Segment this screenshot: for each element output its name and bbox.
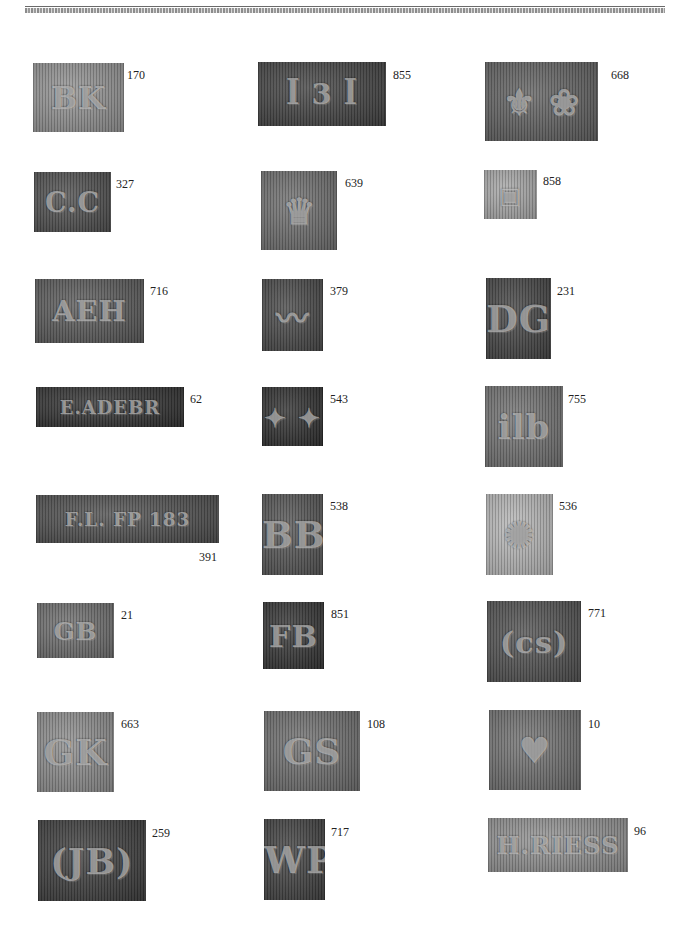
hallmark-photo: C.C — [34, 172, 111, 232]
hallmark-photo: ▣ — [484, 170, 537, 219]
hallmark-photo: H.RIESS — [488, 818, 628, 872]
hallmark-number: 231 — [557, 285, 575, 297]
hallmark-photo: ⚜ ❀ — [485, 62, 598, 141]
hallmark-stamp-glyph: ⚜ ❀ — [485, 81, 598, 122]
hallmark-stamp-glyph: FB — [263, 618, 324, 653]
hallmark-photo: ♛ — [261, 171, 337, 250]
hallmark-number: 543 — [330, 393, 348, 405]
hallmark-number: 538 — [330, 500, 348, 512]
hallmark-photo: ꟾ 3 ꟾ — [258, 62, 386, 126]
hallmark-stamp-glyph: ♥ — [489, 729, 581, 771]
hallmark-photo: F.L. FP 183 — [36, 495, 219, 543]
hallmark-stamp-glyph: GK — [37, 731, 114, 773]
header-ornament-border — [25, 8, 665, 13]
hallmark-photo: (cs) — [487, 601, 581, 682]
hallmark-photo: FB — [263, 602, 324, 669]
hallmark-stamp-glyph: 〰 — [262, 292, 323, 339]
hallmark-stamp-glyph: DG — [486, 297, 551, 340]
hallmark-number: 259 — [152, 827, 170, 839]
hallmark-number: 391 — [199, 551, 217, 563]
hallmark-photo: GB — [37, 603, 114, 658]
hallmark-photo: BK — [33, 63, 124, 132]
hallmark-number: 62 — [190, 393, 202, 405]
hallmark-number: 663 — [121, 718, 139, 730]
hallmark-photo: DG — [486, 278, 551, 359]
hallmark-number: 771 — [588, 607, 606, 619]
hallmark-stamp-glyph: GS — [264, 730, 360, 772]
hallmark-stamp-glyph: ✦ ✦ — [262, 401, 323, 432]
hallmark-number: 858 — [543, 175, 561, 187]
hallmark-number: 639 — [345, 177, 363, 189]
hallmark-number: 10 — [588, 718, 600, 730]
hallmark-number: 851 — [331, 608, 349, 620]
hallmark-stamp-glyph: ▣ — [484, 182, 537, 208]
hallmark-number: 717 — [331, 826, 349, 838]
hallmark-stamp-glyph: H.RIESS — [488, 831, 628, 860]
hallmark-stamp-glyph: BB — [262, 513, 323, 556]
hallmark-number: 96 — [634, 825, 646, 837]
hallmark-stamp-glyph: ꟾ 3 ꟾ — [258, 77, 386, 111]
hallmark-stamp-glyph: (cs) — [487, 624, 581, 660]
hallmark-number: 21 — [121, 609, 133, 621]
hallmark-stamp-glyph: C.C — [34, 187, 111, 218]
hallmark-number: 379 — [330, 285, 348, 297]
hallmark-stamp-glyph: ilb — [485, 407, 563, 447]
hallmark-number: 327 — [116, 178, 134, 190]
hallmark-photo: ilb — [485, 386, 563, 467]
hallmark-stamp-glyph: WP — [264, 838, 325, 881]
hallmark-photo: ✦ ✦ — [262, 387, 323, 446]
hallmark-photo: ♥ — [489, 710, 581, 790]
hallmark-photo: AEH — [35, 279, 144, 343]
hallmark-photo: BB — [262, 494, 323, 575]
hallmark-stamp-glyph: ♛ — [261, 190, 337, 231]
hallmark-number: 170 — [127, 69, 145, 81]
hallmark-number: 536 — [559, 500, 577, 512]
hallmark-stamp-glyph: (JB) — [38, 840, 146, 881]
hallmark-number: 108 — [367, 718, 385, 730]
hallmark-number: 668 — [611, 69, 629, 81]
hallmark-photo: GS — [264, 711, 360, 791]
hallmark-photo: E.ADEBR — [36, 387, 184, 427]
hallmark-stamp-glyph: E.ADEBR — [36, 397, 184, 418]
hallmark-number: 755 — [568, 393, 586, 405]
hallmark-number: 716 — [150, 285, 168, 297]
hallmark-photo: (JB) — [38, 820, 146, 901]
hallmark-stamp-glyph: F.L. FP 183 — [36, 509, 219, 530]
page-header-cropped — [25, 0, 665, 4]
hallmark-photo: ✺ — [486, 494, 553, 575]
hallmark-stamp-glyph: GB — [37, 616, 114, 645]
hallmark-stamp-glyph: BK — [33, 80, 124, 116]
hallmark-photo: GK — [37, 712, 114, 792]
hallmark-stamp-glyph: ✺ — [486, 513, 553, 556]
hallmark-photo: WP — [264, 819, 325, 900]
header-rule — [25, 6, 665, 7]
hallmark-number: 855 — [393, 69, 411, 81]
hallmark-stamp-glyph: AEH — [35, 294, 144, 328]
hallmark-photo: 〰 — [262, 279, 323, 351]
